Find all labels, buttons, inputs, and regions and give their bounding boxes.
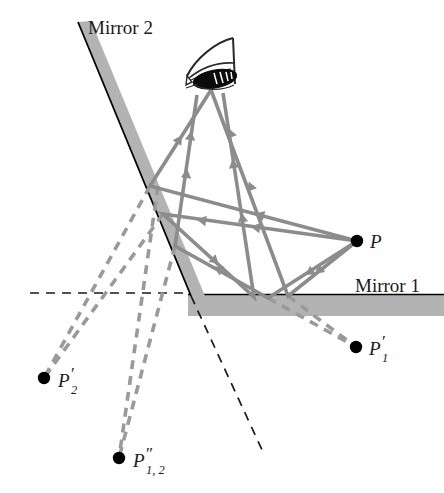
ray-diagram-figure: Mirror 2 Mirror 1 P P ′ 1 P ′ 2 P ″ 1, 2: [0, 0, 444, 493]
label-P1-subscript: 1: [382, 351, 388, 365]
label-point-P12-double-prime: P ″ 1, 2: [132, 444, 165, 477]
label-P1-prime-mark: ′: [382, 332, 386, 351]
eye-icon: [186, 38, 238, 92]
arrowhead-r3c: [181, 168, 193, 179]
label-P12-subscript: 1, 2: [146, 463, 165, 477]
arrowhead-r4b: [196, 215, 207, 227]
label-point-P: P: [369, 231, 382, 252]
point-P2-prime: [38, 372, 50, 384]
point-P12-double-prime: [113, 452, 125, 464]
point-P1-prime: [350, 341, 362, 353]
ray-mirror2-single: [150, 90, 357, 241]
point-P: [351, 235, 363, 247]
ray-mirror1-then-mirror2: [175, 95, 357, 298]
label-P12-prime-mark: ″: [146, 444, 153, 463]
virtual-ray-P12doubleprime-a: [119, 246, 175, 458]
mirror-1: [188, 295, 444, 317]
label-P12-base: P: [132, 450, 145, 471]
virtual-ray-P2prime-b: [44, 214, 163, 378]
ray-mirror1-single: [211, 90, 357, 296]
label-mirror-1: Mirror 1: [355, 275, 420, 296]
label-P2-prime-mark: ′: [71, 364, 75, 383]
label-P2-subscript: 2: [71, 383, 77, 397]
label-point-P1-prime: P ′ 1: [368, 332, 388, 365]
label-P2-base: P: [57, 370, 70, 391]
mirror-1-band: [188, 295, 444, 316]
label-P1-base: P: [368, 338, 381, 359]
label-point-P2-prime: P ′ 2: [57, 364, 77, 397]
label-mirror-2: Mirror 2: [88, 17, 153, 38]
mirror-2-extension-dashed: [191, 296, 263, 452]
optics-diagram-canvas: Mirror 2 Mirror 1 P P ′ 1 P ′ 2 P ″ 1, 2: [0, 0, 444, 493]
